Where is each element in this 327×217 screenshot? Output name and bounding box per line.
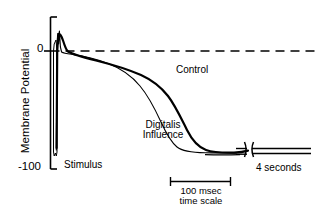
- control-curve-label: Control: [176, 65, 208, 75]
- y-tick-label-minus-100: -100: [18, 161, 41, 173]
- figure-canvas: Membrane Potential 0 -100 Control Digita…: [0, 0, 327, 217]
- time-scale-label-line2: time scale: [170, 196, 232, 206]
- digitalis-curve-label: Digitalis Influence: [136, 120, 190, 140]
- chart-plot: [0, 0, 327, 217]
- y-tick-label-0: 0: [37, 43, 43, 55]
- stimulus-label: Stimulus: [64, 160, 102, 170]
- axis-break-right-stroke: [252, 142, 254, 157]
- y-axis-label: Membrane Potential: [20, 31, 32, 171]
- y-axis: [44, 17, 57, 169]
- time-scale-label: 100 msec time scale: [170, 186, 232, 205]
- digitalis-label-line2: Influence: [143, 129, 184, 140]
- four-seconds-label: 4 seconds: [256, 163, 302, 173]
